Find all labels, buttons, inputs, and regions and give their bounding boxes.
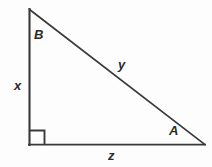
right-angle-marker-icon xyxy=(30,131,45,146)
triangle-figure: B A x y z xyxy=(0,0,212,167)
vertex-label-b: B xyxy=(34,28,43,41)
triangle-graphic xyxy=(0,0,212,167)
side-label-x: x xyxy=(14,79,21,92)
vertex-label-a: A xyxy=(169,124,178,137)
triangle-side-hypotenuse xyxy=(30,10,206,145)
side-label-z: z xyxy=(108,149,115,162)
side-label-y: y xyxy=(118,58,125,71)
